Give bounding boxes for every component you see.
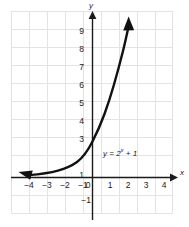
equation-constant: 1 [133,149,137,158]
curve-arrowhead-left [19,170,33,179]
x-tick-label-minus-4: −4 [24,181,34,190]
x-tick-label-minus-3: −3 [42,181,52,190]
x-tick-label-1: 1 [108,181,113,190]
y-axis-label: y [89,2,93,10]
y-axis-arrowhead [89,11,97,19]
x-tick-label-minus-2: −2 [60,181,70,190]
graph-figure: 9 8 7 6 5 4 3 1 −1 −4 −3 −2 −1 0 1 2 3 4… [0,0,189,227]
curve-arrowhead-top [123,17,134,31]
y-tick-label-3: 3 [79,135,84,144]
equation-exponent: x [121,147,124,153]
y-tick-label-minus-1: −1 [81,196,91,205]
y-tick-label-6: 6 [79,81,84,90]
y-tick-label-4: 4 [79,117,84,126]
y-tick-label-7: 7 [79,63,84,72]
x-axis-label: x [180,169,184,177]
x-tick-label-2: 2 [126,181,131,190]
equation-annotation: y = 2x + 1 [103,150,137,158]
axes [11,11,178,220]
y-tick-label-8: 8 [79,45,84,54]
coordinate-plane-svg [0,0,189,227]
x-tick-label-4: 4 [162,181,167,190]
y-tick-label-1: 1 [79,171,84,180]
x-tick-label-3: 3 [144,181,149,190]
equation-lhs: y [103,149,107,158]
equation-plus: + [126,149,131,158]
y-tick-label-9: 9 [79,27,84,36]
y-tick-label-5: 5 [79,99,84,108]
x-axis-arrowhead [170,174,178,182]
equation-equals: = [109,149,114,158]
x-tick-label-0: 0 [86,181,91,190]
